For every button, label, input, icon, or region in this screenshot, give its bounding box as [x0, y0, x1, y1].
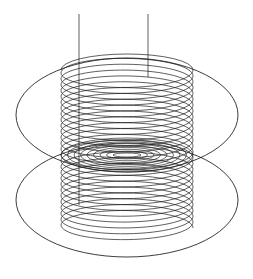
figure-background: [0, 0, 253, 279]
solenoid-field-figure: [0, 0, 253, 279]
figure-canvas: [0, 0, 253, 279]
